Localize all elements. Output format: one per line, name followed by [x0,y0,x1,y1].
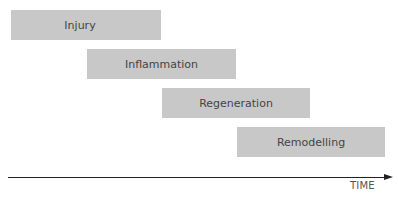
phase-inflammation: Inflammation [87,49,236,79]
phase-regeneration: Regeneration [162,88,310,118]
phase-label: Regeneration [199,97,273,110]
phase-remodelling: Remodelling [237,127,385,157]
phase-injury: Injury [11,10,161,40]
phase-label: Remodelling [277,136,345,149]
phase-label: Injury [64,19,95,32]
axis-label: TIME [350,180,375,191]
arrow-right-icon [384,174,393,180]
phase-label: Inflammation [125,58,198,71]
time-axis [8,177,386,178]
